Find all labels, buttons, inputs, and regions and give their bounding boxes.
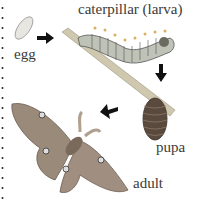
arrow-left-icon [100,104,118,119]
label-pupa: pupa [156,140,185,155]
caterpillar-icon [78,27,174,64]
egg-icon [12,14,37,42]
pupa-icon [143,98,167,140]
label-adult: adult [133,176,163,191]
moth-icon [12,103,128,192]
arrow-right-icon [37,32,54,44]
life-cycle-illustration [0,0,205,205]
label-egg: egg [14,47,36,62]
label-caterpillar: caterpillar (larva) [78,2,183,17]
arrow-down-icon [155,64,167,82]
